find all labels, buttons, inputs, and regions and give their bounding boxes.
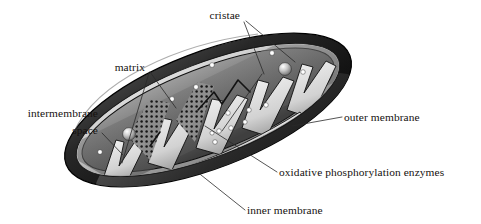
leader-inner-membrane xyxy=(196,171,245,210)
enzyme-dot xyxy=(210,63,215,68)
mitochondrion-diagram: cristae matrix intermembrane space outer… xyxy=(0,0,481,224)
label-intermembrane-space-line1: intermembrane xyxy=(28,107,98,119)
enzyme-dot xyxy=(247,108,252,113)
enzyme-dot xyxy=(301,70,306,75)
enzyme-dot xyxy=(217,129,222,134)
label-oxidative-phosphorylation-enzymes: oxidative phosphorylation enzymes xyxy=(279,166,445,178)
enzyme-dot xyxy=(270,51,275,56)
enzyme-dot xyxy=(213,140,218,145)
matrix-granule-right xyxy=(279,63,292,76)
enzyme-dot xyxy=(98,150,103,155)
label-cristae: cristae xyxy=(210,9,240,21)
label-inner-membrane: inner membrane xyxy=(247,204,323,216)
enzyme-dot xyxy=(229,126,234,131)
enzyme-dot xyxy=(264,103,269,108)
enzyme-dot xyxy=(226,111,231,116)
label-matrix: matrix xyxy=(115,61,146,73)
enzyme-dot xyxy=(194,85,199,90)
enzyme-dot xyxy=(243,120,247,124)
label-intermembrane-space-line2: space xyxy=(72,124,98,136)
label-outer-membrane: outer membrane xyxy=(344,111,420,123)
diagram-canvas: cristae matrix intermembrane space outer… xyxy=(0,0,481,224)
